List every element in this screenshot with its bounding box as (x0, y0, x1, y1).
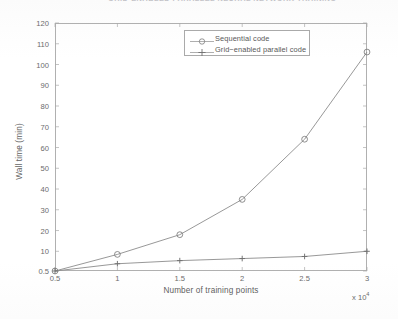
data-point-marker (302, 254, 308, 260)
series-line-sequential (55, 52, 367, 271)
x-axis-exponent-power: 4 (366, 291, 369, 297)
chart-legend: Sequential code Grid−enabled parallel co… (184, 30, 310, 56)
legend-label-sequential: Sequential code (215, 34, 270, 43)
circle-marker-icon (189, 33, 215, 44)
chart-figure: 0.5102030405060708090100110120 0.511.522… (0, 0, 398, 319)
plus-marker-icon (189, 44, 215, 55)
series-line-parallel (55, 251, 367, 271)
legend-item-sequential: Sequential code (185, 33, 309, 44)
data-point-marker (364, 49, 370, 55)
y-axis-title: Wall time (min) (15, 97, 24, 207)
x-axis-exponent: x 104 (352, 291, 369, 302)
data-point-marker (115, 261, 121, 267)
data-point-marker (239, 256, 245, 262)
legend-label-parallel: Grid−enabled parallel code (215, 45, 306, 54)
x-axis-title: Number of training points (55, 286, 367, 295)
x-axis-exponent-base: x 10 (352, 293, 366, 302)
data-point-marker (364, 248, 370, 254)
legend-item-parallel: Grid−enabled parallel code (185, 44, 309, 55)
data-series-group (52, 49, 370, 274)
data-point-marker (177, 258, 183, 264)
axis-ticks (55, 23, 367, 271)
